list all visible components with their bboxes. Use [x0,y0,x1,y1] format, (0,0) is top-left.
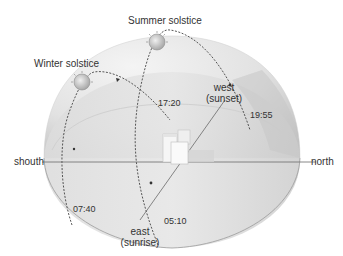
east-text: east [118,226,162,237]
east-label: east (sunrise) [118,226,162,248]
south-label: shouth [14,156,44,167]
time-0740-label: 07:40 [73,204,96,215]
north-label: north [311,156,334,167]
west-label: west (sunset) [204,82,244,104]
sunrise-text: (sunrise) [118,237,162,248]
time-0510-label: 05:10 [164,216,187,227]
sun-path-diagram: Summer solstice Winter solstice 17:20 19… [0,0,343,256]
winter-solstice-label: Winter solstice [34,58,99,69]
summer-solstice-label: Summer solstice [128,15,202,26]
sunset-text: (sunset) [204,93,244,104]
time-1955-label: 19:55 [250,110,273,121]
west-text: west [204,82,244,93]
time-1720-label: 17:20 [158,98,181,109]
